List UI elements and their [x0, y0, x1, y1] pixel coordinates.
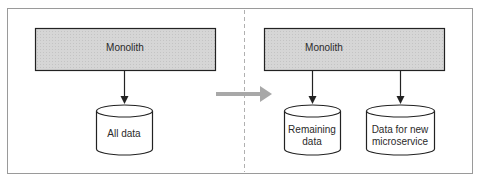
diagram-canvas	[0, 0, 480, 182]
monolith-label-before: Monolith	[35, 42, 215, 54]
database-label-all-data: All data	[96, 128, 152, 140]
database-label-new-microservice: Data for new microservice	[366, 124, 434, 148]
database-label-remaining-data: Remaining data	[284, 124, 340, 148]
monolith-label-after: Monolith	[264, 42, 384, 54]
